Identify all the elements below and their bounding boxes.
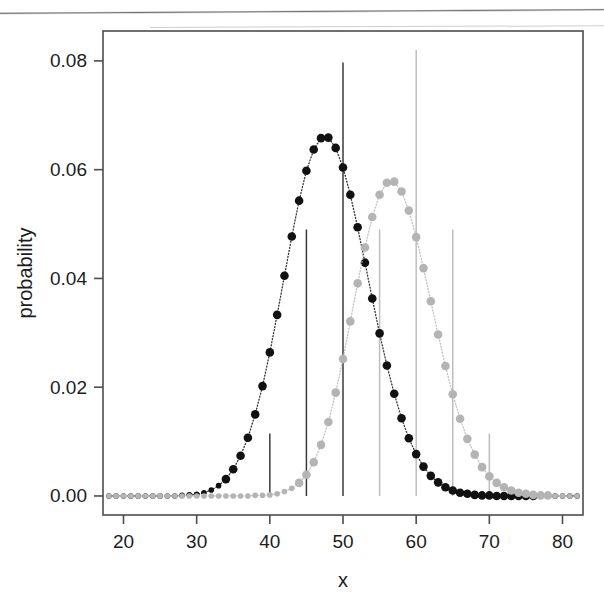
data-point-gray-23: [143, 493, 149, 499]
data-point-gray-70: [485, 472, 494, 481]
data-point-gray-76: [529, 491, 538, 500]
data-point-gray-26: [165, 493, 171, 499]
data-point-black-70: [485, 491, 494, 500]
data-point-gray-48: [324, 418, 333, 427]
data-point-gray-37: [245, 493, 251, 499]
data-point-gray-78: [544, 491, 553, 500]
data-point-gray-34: [223, 493, 229, 499]
data-point-gray-66: [456, 414, 465, 423]
data-point-black-66: [456, 488, 465, 497]
data-point-black-61: [419, 462, 428, 471]
y-tick-label-0.02: 0.02: [50, 377, 87, 398]
data-point-gray-39: [260, 493, 266, 499]
data-point-gray-71: [492, 479, 501, 488]
data-point-gray-77: [536, 491, 545, 500]
x-tick-label-40: 40: [259, 531, 280, 552]
y-tick-label-0.00: 0.00: [50, 485, 87, 506]
data-point-gray-38: [252, 493, 258, 499]
y-tick-label-0.08: 0.08: [50, 50, 87, 71]
data-point-gray-43: [289, 486, 295, 492]
data-point-gray-31: [201, 493, 207, 499]
data-point-gray-67: [463, 435, 472, 444]
data-point-gray-74: [514, 488, 523, 497]
data-point-gray-52: [353, 279, 362, 288]
data-point-gray-82: [574, 493, 580, 499]
data-point-gray-59: [405, 206, 414, 215]
data-point-black-40: [266, 348, 275, 357]
data-point-gray-63: [434, 330, 443, 339]
figure-container: 203040506070800.000.020.040.060.08xproba…: [0, 0, 604, 599]
data-point-gray-62: [427, 297, 436, 306]
data-point-black-39: [258, 382, 267, 391]
data-point-gray-55: [375, 190, 384, 199]
data-point-black-58: [397, 414, 406, 423]
data-point-black-38: [251, 410, 260, 419]
data-point-gray-20: [121, 493, 127, 499]
data-point-gray-50: [339, 355, 348, 364]
y-tick-label-0.04: 0.04: [50, 268, 87, 289]
data-point-black-33: [216, 483, 222, 489]
data-point-gray-72: [500, 483, 509, 492]
data-point-gray-81: [567, 493, 573, 499]
data-point-black-41: [273, 311, 282, 320]
data-point-black-68: [470, 491, 479, 500]
data-point-gray-73: [507, 486, 516, 495]
data-point-gray-19: [113, 493, 119, 499]
data-point-black-69: [478, 491, 487, 500]
data-point-gray-33: [216, 493, 222, 499]
data-point-black-34: [222, 475, 231, 484]
data-point-gray-36: [238, 493, 244, 499]
data-point-black-57: [390, 389, 399, 398]
probability-chart: 203040506070800.000.020.040.060.08xproba…: [0, 0, 604, 599]
data-point-gray-22: [135, 493, 141, 499]
y-tick-label-0.06: 0.06: [50, 159, 87, 180]
data-point-black-46: [309, 145, 318, 154]
data-point-black-36: [236, 451, 245, 460]
x-axis-title: x: [338, 569, 348, 591]
data-point-black-43: [287, 232, 296, 241]
x-tick-label-30: 30: [186, 531, 207, 552]
data-point-black-67: [463, 489, 472, 498]
data-point-gray-32: [208, 493, 214, 499]
data-point-gray-53: [361, 243, 370, 252]
data-point-black-49: [331, 144, 340, 153]
data-point-black-62: [427, 472, 436, 481]
data-point-black-50: [339, 163, 348, 172]
data-point-gray-57: [390, 177, 399, 186]
data-point-gray-51: [346, 317, 355, 326]
data-point-black-44: [295, 196, 304, 205]
data-point-gray-45: [302, 470, 311, 479]
y-axis-title: probability: [14, 227, 36, 318]
data-point-gray-65: [448, 390, 457, 399]
data-point-gray-68: [470, 450, 479, 459]
data-point-black-47: [317, 134, 326, 143]
data-point-gray-80: [560, 493, 566, 499]
data-point-gray-24: [150, 493, 156, 499]
data-point-gray-61: [419, 264, 428, 273]
data-point-black-65: [448, 486, 457, 495]
x-tick-label-50: 50: [332, 531, 353, 552]
data-point-gray-69: [478, 463, 487, 472]
data-point-black-56: [383, 361, 392, 370]
data-point-gray-60: [412, 233, 421, 242]
data-point-black-72: [500, 492, 509, 501]
data-point-gray-40: [267, 492, 273, 498]
data-point-gray-44: [295, 479, 304, 488]
data-point-black-35: [229, 465, 238, 474]
data-point-gray-29: [187, 493, 193, 499]
data-point-black-52: [353, 223, 362, 232]
data-point-gray-75: [522, 489, 531, 498]
data-point-gray-41: [274, 491, 280, 497]
data-point-black-71: [492, 492, 501, 501]
data-point-black-59: [405, 434, 414, 443]
data-point-gray-30: [194, 493, 200, 499]
data-point-black-60: [412, 450, 421, 459]
data-point-gray-42: [282, 489, 288, 495]
x-tick-label-60: 60: [406, 531, 427, 552]
data-point-black-42: [280, 271, 289, 280]
data-point-gray-25: [157, 493, 163, 499]
data-point-gray-54: [368, 213, 377, 222]
data-point-black-48: [324, 133, 333, 142]
data-point-gray-35: [230, 493, 236, 499]
data-point-gray-46: [309, 458, 318, 467]
